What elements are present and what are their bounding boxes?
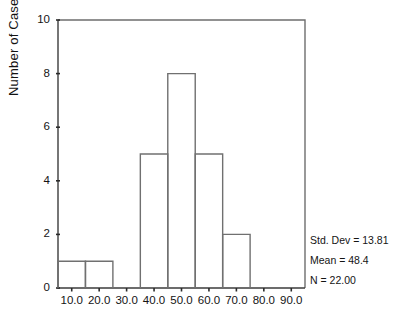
stat-n: N = 22.00 [310, 274, 396, 286]
plot-axes [58, 20, 305, 288]
histogram-bar [140, 154, 167, 288]
y-axis-title: Number of Cases [6, 0, 21, 96]
stat-std-dev: Std. Dev = 13.81 [310, 234, 396, 246]
y-tick-label: 6 [24, 121, 50, 133]
histogram-bar [58, 261, 85, 288]
stat-mean: Mean = 48.4 [310, 254, 396, 266]
y-tick-label: 8 [24, 68, 50, 80]
histogram-bar [85, 261, 112, 288]
y-tick-label: 0 [24, 282, 50, 294]
y-tick-label: 4 [24, 175, 50, 187]
histogram-bar [168, 74, 195, 288]
histogram-bar [223, 234, 250, 288]
x-tick-label: 90.0 [271, 295, 311, 307]
y-tick-label: 10 [24, 14, 50, 26]
histogram-figure: Number of Cases 0246810 10.020.030.040.0… [0, 0, 397, 322]
statistics-annotation: Std. Dev = 13.81 Mean = 48.4 N = 22.00 [310, 234, 396, 294]
plot-frame [58, 20, 305, 288]
histogram-bar [195, 154, 222, 288]
y-tick-label: 2 [24, 228, 50, 240]
